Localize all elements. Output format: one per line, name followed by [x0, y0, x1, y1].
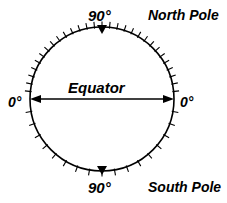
north-pole-label: North Pole	[148, 8, 219, 22]
degree-tick	[50, 41, 54, 46]
latitude-diagram: 90° North Pole 0° 0° Equator 90° South P…	[0, 0, 227, 203]
equator-label: Equator	[68, 80, 125, 95]
equator-right-label: 0°	[180, 95, 193, 109]
degree-tick	[25, 91, 32, 92]
arrowhead-left	[30, 95, 41, 103]
north-pole-marker-icon	[97, 25, 107, 34]
south-latitude-label: 90°	[88, 180, 111, 195]
degree-tick	[155, 47, 160, 51]
arrowhead-right	[163, 95, 174, 103]
degree-tick	[149, 41, 153, 46]
degree-tick	[44, 47, 49, 51]
equator-left-label: 0°	[8, 95, 21, 109]
equator-arrow	[30, 95, 174, 103]
degree-tick	[172, 91, 179, 92]
south-pole-label: South Pole	[148, 180, 221, 194]
north-latitude-label: 90°	[88, 8, 111, 23]
